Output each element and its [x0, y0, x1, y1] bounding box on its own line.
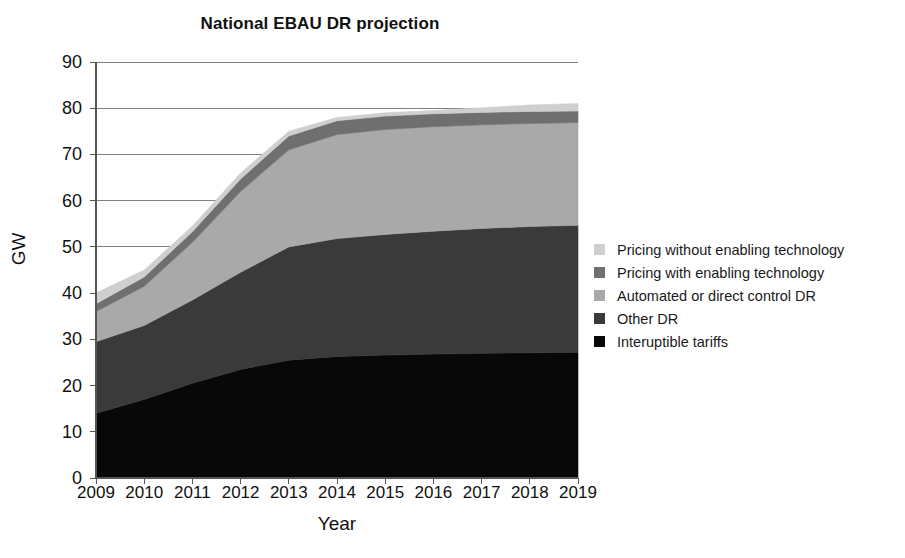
x-tick-label: 2014	[313, 484, 361, 502]
y-tick-label: 50	[38, 238, 82, 256]
chart-figure: National EBAU DR projection GW Year 0102…	[0, 0, 905, 558]
y-tick-label: 10	[38, 423, 82, 441]
x-tick-label: 2019	[554, 484, 602, 502]
x-tick-label: 2013	[265, 484, 313, 502]
y-tick-label: 80	[38, 99, 82, 117]
x-tick-label: 2016	[409, 484, 457, 502]
legend-item-label: Interuptible tariffs	[617, 334, 728, 350]
x-tick-label: 2015	[361, 484, 409, 502]
y-tick-label: 90	[38, 53, 82, 71]
legend-swatch-icon	[594, 267, 605, 278]
y-tick-label: 30	[38, 330, 82, 348]
y-tick-label: 60	[38, 192, 82, 210]
legend-item-label: Pricing with enabling technology	[617, 265, 824, 281]
legend-swatch-icon	[594, 313, 605, 324]
x-tick-label: 2018	[506, 484, 554, 502]
y-tick-label: 70	[38, 145, 82, 163]
legend-item[interactable]: Pricing without enabling technology	[594, 238, 894, 261]
legend-swatch-icon	[594, 336, 605, 347]
x-tick-label: 2017	[458, 484, 506, 502]
y-tick-label: 40	[38, 284, 82, 302]
legend-item[interactable]: Other DR	[594, 307, 894, 330]
area-series-group	[96, 104, 578, 478]
x-tick-label: 2009	[72, 484, 120, 502]
legend-item-label: Automated or direct control DR	[617, 288, 816, 304]
legend-swatch-icon	[594, 244, 605, 255]
legend-item[interactable]: Interuptible tariffs	[594, 330, 894, 353]
y-tick-label: 20	[38, 377, 82, 395]
legend-item[interactable]: Pricing with enabling technology	[594, 261, 894, 284]
legend-item[interactable]: Automated or direct control DR	[594, 284, 894, 307]
legend-item-label: Pricing without enabling technology	[617, 242, 844, 258]
legend-item-label: Other DR	[617, 311, 678, 327]
x-tick-label: 2012	[217, 484, 265, 502]
chart-legend: Pricing without enabling technologyPrici…	[594, 238, 894, 353]
x-tick-label: 2011	[168, 484, 216, 502]
legend-swatch-icon	[594, 290, 605, 301]
x-tick-label: 2010	[120, 484, 168, 502]
